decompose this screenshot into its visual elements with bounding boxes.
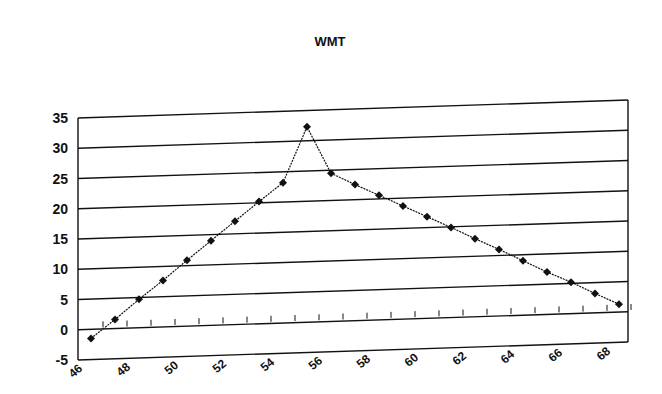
x-tick-label: 60: [402, 350, 421, 370]
data-point-marker: [543, 268, 551, 276]
x-tick-label: 52: [210, 356, 229, 376]
gridline: [78, 100, 628, 118]
y-tick-label: 15: [52, 231, 68, 247]
x-tick-label: 46: [66, 361, 85, 381]
data-point-marker: [423, 213, 431, 221]
gridline: [78, 282, 628, 300]
x-tick-label: 48: [114, 360, 133, 380]
y-tick-label: 30: [52, 140, 68, 156]
y-tick-label: 35: [52, 110, 68, 126]
y-tick-label: -5: [56, 352, 69, 368]
data-point-marker: [519, 257, 527, 265]
data-point-marker: [471, 235, 479, 243]
x-tick-label: 58: [354, 352, 373, 372]
data-point-marker: [303, 123, 311, 131]
gridline: [78, 312, 628, 330]
x-tick-label: 56: [306, 353, 325, 373]
y-tick-label: 10: [52, 261, 68, 277]
data-point-marker: [351, 181, 359, 189]
gridline: [78, 342, 628, 360]
gridline: [78, 191, 628, 209]
data-point-marker: [447, 223, 455, 231]
gridline: [78, 251, 628, 269]
y-tick-label: 25: [52, 171, 68, 187]
data-point-marker: [399, 202, 407, 210]
y-tick-label: 5: [60, 292, 68, 308]
y-tick-label: 20: [52, 201, 68, 217]
gridlines: [78, 100, 628, 360]
data-point-marker: [375, 191, 383, 199]
gridline: [78, 221, 628, 239]
data-point-marker: [495, 245, 503, 253]
x-tick-label: 54: [258, 355, 277, 375]
x-tick-label: 68: [594, 344, 613, 364]
y-tick-label: 0: [60, 322, 68, 338]
y-axis: -505101520253035: [52, 110, 68, 368]
x-tick-label: 64: [498, 347, 517, 367]
line-chart: WMT -505101520253035 4648505254565860626…: [0, 0, 662, 394]
data-point-marker: [615, 300, 623, 308]
gridline: [78, 130, 628, 148]
data-point-marker: [567, 278, 575, 286]
data-point-marker: [591, 289, 599, 297]
x-tick-label: 66: [546, 345, 565, 365]
series-line: [91, 127, 619, 339]
gridline: [78, 161, 628, 179]
x-tick-label: 50: [162, 358, 181, 378]
series-wmt: [87, 123, 623, 343]
x-axis: 464850525456586062646668: [66, 304, 631, 381]
x-tick-label: 62: [450, 349, 469, 369]
chart-title: WMT: [314, 34, 345, 49]
